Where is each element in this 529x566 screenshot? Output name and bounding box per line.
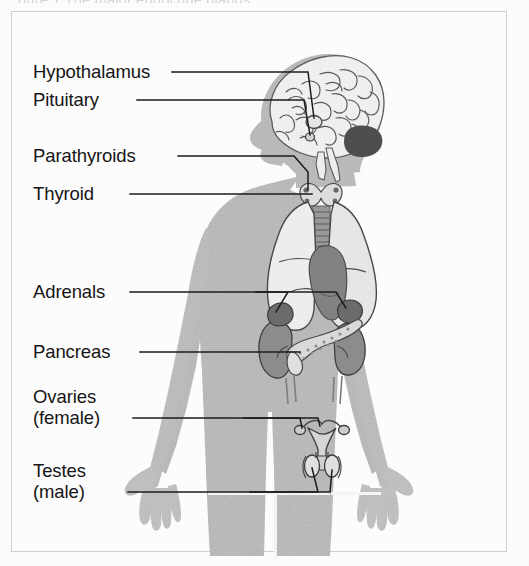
testis <box>305 455 320 477</box>
label-pancreas: Pancreas <box>33 341 110 362</box>
label-hypothalamus-text: Hypothalamus <box>33 61 150 82</box>
label-testes-subtext: (male) <box>33 481 86 502</box>
adrenal-gland <box>268 303 293 326</box>
label-adrenals-text: Adrenals <box>33 281 105 302</box>
label-testes-text: Testes <box>33 460 86 481</box>
label-parathyroids-text: Parathyroids <box>33 145 136 166</box>
label-testes: Testes (male) <box>33 460 86 502</box>
label-hypothalamus: Hypothalamus <box>33 61 150 82</box>
label-ovaries-text: Ovaries <box>33 386 96 407</box>
parathyroid-gland <box>333 187 338 192</box>
ovary-organ <box>295 426 306 435</box>
label-parathyroids: Parathyroids <box>33 145 136 166</box>
kidney-organ <box>259 321 292 378</box>
label-ovaries: Ovaries (female) <box>33 386 100 428</box>
ovary-organ <box>339 426 350 435</box>
label-pituitary-text: Pituitary <box>33 89 99 110</box>
label-thyroid: Thyroid <box>33 183 94 204</box>
label-thyroid-text: Thyroid <box>33 183 94 204</box>
endocrine-system-figure: gure 1 The major endocrine glands <box>0 0 529 566</box>
label-pancreas-text: Pancreas <box>33 341 110 362</box>
label-ovaries-subtext: (female) <box>33 407 100 428</box>
label-pituitary: Pituitary <box>33 89 99 110</box>
label-adrenals: Adrenals <box>33 281 105 302</box>
